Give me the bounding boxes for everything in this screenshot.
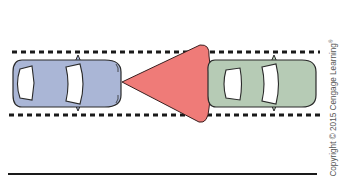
registered-mark: ® xyxy=(328,39,334,43)
copyright-notice: Copyright © 2015 Cengage Learning® xyxy=(328,39,339,176)
diagram-canvas xyxy=(0,0,350,187)
front-car xyxy=(208,55,316,111)
detection-cone xyxy=(122,45,211,122)
rear-car-back-window xyxy=(18,66,35,100)
front-car-back-window xyxy=(224,68,242,100)
front-car-windshield xyxy=(262,64,279,104)
rear-car-windshield xyxy=(66,64,83,104)
rear-car xyxy=(13,55,121,111)
copyright-text: Copyright © 2015 Cengage Learning xyxy=(329,43,338,177)
